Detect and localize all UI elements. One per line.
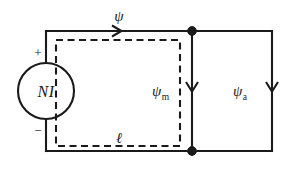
air-flux-label: ψa bbox=[233, 83, 248, 102]
core-flux-label: ψm bbox=[152, 83, 170, 102]
source-label: NI bbox=[37, 83, 55, 100]
core-flux-subscript: m bbox=[162, 92, 170, 102]
magnetic-circuit-diagram: NI + − ψ ψm ψa ℓ bbox=[0, 0, 289, 171]
air-flux-subscript: a bbox=[243, 92, 248, 102]
polarity-minus-label: − bbox=[34, 123, 41, 138]
bottom-junction-dot bbox=[188, 147, 197, 156]
polarity-plus-label: + bbox=[34, 45, 41, 60]
core-flux-base: ψ bbox=[152, 83, 162, 99]
circuit-schematic: NI + − ψ ψm ψa ℓ bbox=[0, 0, 289, 171]
air-flux-base: ψ bbox=[233, 83, 243, 99]
total-flux-label: ψ bbox=[114, 8, 124, 24]
top-junction-dot bbox=[188, 27, 197, 36]
mean-path-label: ℓ bbox=[116, 130, 122, 146]
